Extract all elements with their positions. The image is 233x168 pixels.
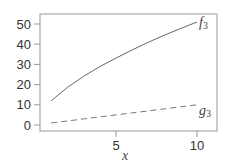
y-tick-label: 20 [17, 77, 31, 92]
y-tick-label: 0 [24, 118, 31, 133]
line-chart: 01020304050 510 f3g3 x [0, 0, 233, 168]
y-axis: 01020304050 [17, 17, 40, 133]
series-label-g3: g3 [199, 103, 211, 119]
y-tick-label: 50 [17, 17, 31, 32]
plot-frame [40, 14, 217, 131]
x-tick-label: 10 [190, 138, 204, 153]
x-tick-label: 5 [112, 138, 119, 153]
series-line-f3 [51, 22, 197, 101]
series-line-g3 [51, 105, 197, 123]
x-axis-label: x [121, 148, 129, 163]
y-tick-label: 10 [17, 97, 31, 112]
series-group: f3g3 [51, 15, 211, 123]
y-tick-label: 40 [17, 37, 31, 52]
series-label-f3: f3 [199, 15, 208, 31]
y-tick-label: 30 [17, 57, 31, 72]
